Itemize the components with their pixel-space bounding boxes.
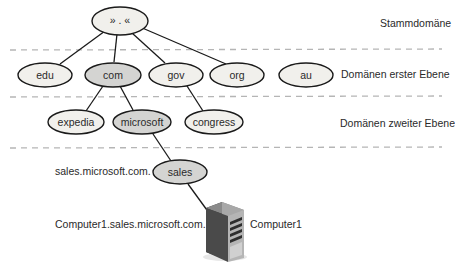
level-separator-1: [10, 49, 442, 50]
node-edu: edu: [18, 63, 72, 87]
level-label-first: Domänen erster Ebene: [341, 68, 450, 80]
node-gov: gov: [149, 63, 203, 87]
host-fqdn-label: Computer1.sales.microsoft.com.: [55, 218, 206, 230]
node-au: au: [279, 63, 333, 87]
node-congress-label: congress: [193, 116, 236, 128]
edge-root-com: [114, 34, 117, 62]
node-root-label: » . «: [110, 14, 131, 26]
node-au-label: au: [300, 69, 312, 81]
node-expedia-label: expedia: [58, 116, 95, 128]
node-gov-label: gov: [168, 69, 186, 81]
node-com: com: [85, 63, 141, 87]
edge-com-expedia: [86, 86, 103, 111]
edge-com-microsoft: [120, 86, 133, 110]
node-org: org: [210, 63, 264, 87]
node-edu-label: edu: [36, 69, 54, 81]
node-sales: sales: [153, 160, 207, 184]
node-microsoft: microsoft: [113, 110, 171, 134]
node-org-label: org: [229, 69, 244, 81]
node-com-label: com: [103, 69, 123, 81]
edge-root-gov: [132, 33, 165, 63]
node-sales-label: sales: [168, 166, 193, 178]
node-expedia: expedia: [48, 110, 104, 134]
level-separator-3: [10, 147, 442, 148]
edge-root-org: [140, 27, 226, 64]
node-microsoft-label: microsoft: [121, 116, 164, 128]
edge-gov-congress: [187, 86, 203, 111]
level-label-root: Stammdomäne: [380, 17, 451, 29]
node-root: » . «: [92, 7, 148, 35]
server-icon: [203, 202, 247, 262]
sales-fqdn-label: sales.microsoft.com.: [55, 165, 151, 177]
node-congress: congress: [185, 110, 243, 134]
level-separator-2: [10, 96, 442, 97]
level-label-second: Domänen zweiter Ebene: [340, 117, 455, 129]
host-name-label: Computer1: [250, 218, 302, 230]
edge-root-edu: [60, 31, 105, 64]
